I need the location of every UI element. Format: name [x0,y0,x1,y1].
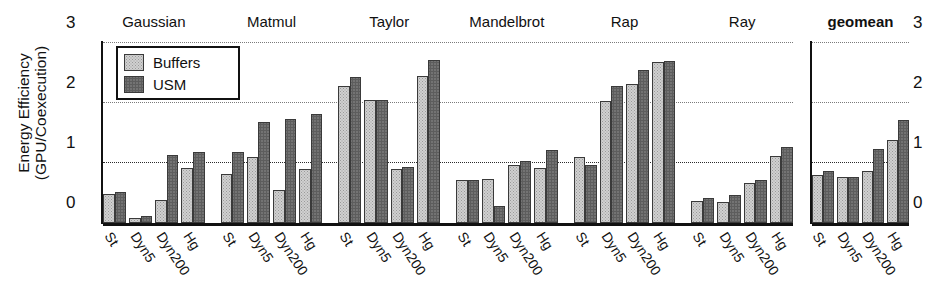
bar-ray-st-usm [703,198,715,223]
bar-matmul-dyn5-buffers [247,157,259,223]
bar-gaussian-st-usm [115,192,127,223]
bar-pair-dyn5 [837,43,859,223]
bar-gaussian-dyn200-usm [167,155,179,223]
x-label-rap-hg: Hg [651,229,674,253]
bar-pair-dyn200 [862,43,884,223]
bar-mandelbrot-dyn200-buffers [508,165,520,223]
bar-matmul-dyn5-usm [258,122,270,223]
x-label-geomean-hg: Hg [885,229,908,253]
y-axis-title-line-1: Energy Efficiency [15,3,32,223]
bar-rap-dyn200-usm [638,70,650,223]
bar-matmul-dyn200-usm [285,119,297,223]
bar-pair-st [574,43,597,223]
legend-label-usm: USM [153,76,186,93]
geomean-x-axis-line [812,223,909,226]
bar-mandelbrot-dyn200-usm [520,161,532,223]
bar-taylor-dyn5-buffers [364,100,376,223]
y-tick-label-2: 2 [913,73,922,93]
bar-mandelbrot-st-usm [468,180,480,223]
group-title-gaussian: Gaussian [103,13,205,30]
bar-group-taylor [338,43,440,223]
x-label-taylor-hg: Hg [415,229,438,253]
bar-pair-st [338,43,361,223]
bar-group-geomean [812,43,909,223]
group-title-ray: Ray [691,13,793,30]
x-label-taylor-st: St [337,229,358,249]
bar-geomean-dyn200-usm [873,149,884,223]
bar-geomean-hg-usm [898,120,909,223]
bar-geomean-hg-buffers [887,140,898,223]
x-label-mandelbrot-dyn5: Dyn5 [481,229,512,265]
bar-matmul-dyn200-buffers [273,190,285,223]
y-tick-label-1: 1 [913,133,922,153]
x-label-geomean-dyn5: Dyn5 [835,229,866,265]
y-tick-label-3: 3 [913,13,922,33]
bar-pair-dyn200 [744,43,767,223]
bar-geomean-dyn200-buffers [862,171,873,223]
x-label-rap-st: St [572,229,593,249]
bar-matmul-hg-buffers [299,169,311,223]
bar-mandelbrot-hg-usm [546,150,558,223]
bar-pair-st [812,43,834,223]
bar-pair-dyn5 [247,43,270,223]
bar-ray-dyn5-buffers [717,202,729,223]
y-tick-label-2: 2 [66,73,75,93]
bar-pair-dyn5 [717,43,740,223]
bar-gaussian-dyn5-buffers [129,218,141,223]
bar-matmul-hg-usm [311,114,323,223]
x-label-mandelbrot-st: St [455,229,476,249]
bar-pair-hg [417,43,440,223]
bar-pair-hg [534,43,557,223]
bar-taylor-dyn200-buffers [391,169,403,223]
bar-pair-hg [299,43,322,223]
x-label-matmul-st: St [219,229,240,249]
legend: Buffers USM [116,46,240,100]
bar-rap-dyn200-buffers [626,84,638,223]
bar-ray-st-buffers [691,201,703,223]
bar-pair-dyn200 [273,43,296,223]
group-title-rap: Rap [574,13,676,30]
bar-pair-hg [652,43,675,223]
x-axis-line [103,223,793,226]
x-label-geomean-st: St [810,229,831,249]
y-tick-label-0: 0 [913,193,922,213]
bar-geomean-st-usm [823,171,834,223]
bar-geomean-dyn5-buffers [837,177,848,223]
legend-swatch-buffers [124,54,144,71]
bar-mandelbrot-st-buffers [456,180,468,223]
bar-taylor-st-usm [350,77,362,223]
bar-gaussian-st-buffers [103,194,115,223]
bar-pair-dyn5 [600,43,623,223]
bar-rap-hg-buffers [652,62,664,223]
bar-matmul-st-usm [232,152,244,223]
y-axis-title: Energy Efficiency (GPU/Coexecution) [15,3,49,223]
y-tick-label-0: 0 [66,193,75,213]
bar-mandelbrot-hg-buffers [534,168,546,223]
x-label-ray-dyn5: Dyn5 [716,229,747,265]
bar-taylor-hg-buffers [417,76,429,223]
y-axis-title-line-2: (GPU/Coexecution) [32,3,49,223]
geomean-title: geomean [812,13,909,30]
bar-mandelbrot-dyn5-buffers [482,179,494,223]
bar-ray-hg-usm [781,147,793,223]
bar-group-mandelbrot [456,43,558,223]
geomean-bar-groups [812,43,909,223]
bar-gaussian-hg-usm [193,152,205,223]
bar-taylor-dyn200-usm [402,167,414,223]
bar-taylor-st-buffers [338,86,350,223]
bar-pair-hg [770,43,793,223]
bar-taylor-hg-usm [428,60,440,223]
x-label-rap-dyn5: Dyn5 [598,229,629,265]
y-tick-label-1: 1 [66,133,75,153]
group-title-matmul: Matmul [221,13,323,30]
x-label-mandelbrot-hg: Hg [533,229,556,253]
legend-swatch-usm [124,76,144,93]
x-label-gaussian-dyn5: Dyn5 [128,229,159,265]
y-tick-label-3: 3 [66,13,75,33]
bar-gaussian-hg-buffers [181,168,193,223]
bar-pair-hg [887,43,909,223]
bar-pair-dyn200 [391,43,414,223]
x-label-gaussian-hg: Hg [180,229,203,253]
bar-ray-dyn200-usm [755,180,767,223]
chart-figure: Energy Efficiency (GPU/Coexecution) 0123… [0,0,937,299]
